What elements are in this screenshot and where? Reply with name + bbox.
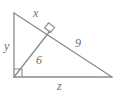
segment-hypotenuse (14, 13, 112, 77)
geometry-figure: x y 6 9 z (0, 0, 122, 95)
label-segment-z: z (57, 80, 62, 92)
segment-altitude (14, 31, 50, 77)
label-segment-x: x (33, 7, 38, 19)
label-segment-y: y (4, 40, 9, 52)
label-segment-hypotenuse-lower: 9 (75, 37, 81, 49)
label-segment-altitude: 6 (36, 54, 42, 66)
